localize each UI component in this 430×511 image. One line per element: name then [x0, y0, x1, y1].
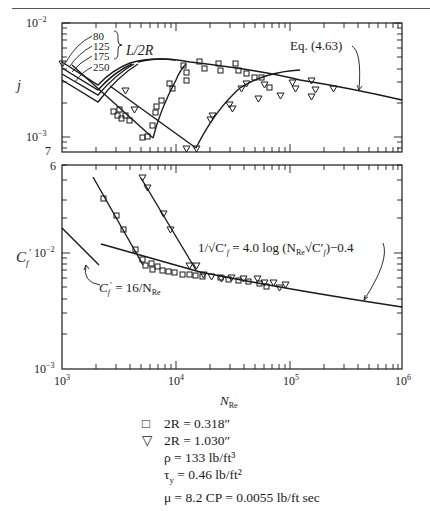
legend-square: □2R = 0.318″	[142, 415, 320, 432]
y-ticks-top	[62, 23, 402, 148]
x-label-nre: NRe	[219, 393, 238, 410]
curve-transition-small	[153, 64, 186, 138]
legend-rho: ρ = 133 lb/ft³	[142, 449, 320, 466]
bottom-triangles	[139, 175, 289, 291]
ytick-top-1e-2: 10−2	[26, 15, 47, 30]
laminar-arrow	[85, 265, 100, 285]
l2r-250: 250	[93, 61, 110, 73]
square-marker-icon: □	[142, 415, 164, 432]
y-label-j: j	[15, 78, 21, 93]
ytick-bottom-6: 6	[50, 159, 56, 173]
curve-fit-large	[141, 178, 196, 270]
legend-mu: μ = 8.2 CP = 0.0055 lb/ft sec	[142, 489, 320, 506]
eq463-label: Eq. (4.63)	[290, 38, 342, 53]
laminar-eq-label: Cf′ = 16/NRe	[99, 280, 161, 297]
top-triangles	[59, 61, 337, 152]
bottom-panel-frame	[62, 165, 402, 369]
ytick-top-7: 7	[45, 144, 51, 158]
xtick-1e4: 104	[168, 373, 184, 388]
xtick-1e6: 106	[395, 373, 411, 388]
x-ticks	[96, 23, 398, 369]
l2r-label: L/2R	[125, 43, 154, 58]
triangle-marker-icon: ▽	[142, 432, 164, 449]
curve-laminar-16-over-re	[62, 228, 99, 265]
curve-eq463	[138, 59, 402, 100]
ytick-bottom-1e-3: 10−3	[34, 361, 55, 376]
legend-triangle: ▽2R = 1.030″	[142, 432, 320, 449]
turbulent-eq-label: 1/√C′f = 4.0 log (NRe√C′f)−0.4	[198, 240, 354, 257]
ytick-top-1e-3: 10−3	[26, 129, 47, 144]
y-label-cf: Cf′	[16, 247, 32, 268]
xtick-1e5: 105	[283, 373, 299, 388]
legend-tau: τy = 0.46 lb/ft²	[142, 466, 320, 489]
ytick-bottom-1e-2: 10−2	[34, 245, 55, 260]
legend: □2R = 0.318″ ▽2R = 1.030″ ρ = 133 lb/ft³…	[142, 415, 320, 506]
turb-arrow	[364, 243, 384, 300]
top-squares	[111, 59, 272, 140]
xtick-1e3: 103	[54, 373, 70, 388]
eq463-arrow	[352, 46, 360, 90]
curve-transition-large	[196, 70, 300, 148]
